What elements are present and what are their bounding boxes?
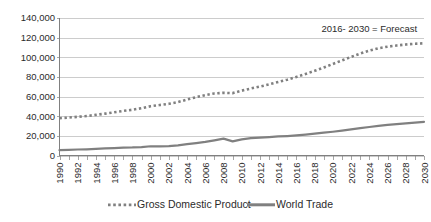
x-tick-label: 2030 <box>419 163 430 184</box>
y-tick-label: 120,000 <box>21 32 55 43</box>
y-tick-label: 40,000 <box>26 111 55 122</box>
x-tick-label: 2006 <box>200 163 211 184</box>
x-tick-label: 2020 <box>327 163 338 184</box>
x-tick-label: 1998 <box>127 163 138 184</box>
x-tick-label: 2012 <box>255 163 266 184</box>
x-tick-label: 2022 <box>346 163 357 184</box>
x-tick-label: 2024 <box>364 163 375 184</box>
x-tick-label: 2000 <box>145 163 156 184</box>
legend-label-world-trade: World Trade <box>276 198 333 210</box>
chart-legend: Gross Domestic ProductWorld Trade <box>108 198 333 210</box>
x-tick-label: 2028 <box>400 163 411 184</box>
y-tick-label: 140,000 <box>21 12 55 23</box>
legend-label-gdp: Gross Domestic Product <box>137 198 251 210</box>
x-tick-label: 2010 <box>236 163 247 184</box>
line-chart: 020,00040,00060,00080,000100,000120,0001… <box>0 0 431 222</box>
forecast-annotation-label: 2016- 2030 = Forecast <box>321 23 417 34</box>
x-tick-label: 2008 <box>218 163 229 184</box>
x-tick-label: 2014 <box>273 163 284 184</box>
y-tick-label: 80,000 <box>26 71 55 82</box>
x-tick-label: 2004 <box>182 163 193 184</box>
x-tick-label: 1992 <box>72 163 83 184</box>
x-axis-tick-labels: 1990199219941996199820002002200420062008… <box>54 163 430 184</box>
chart-canvas: 020,00040,00060,00080,000100,000120,0001… <box>0 0 431 222</box>
x-tick-label: 1990 <box>54 163 65 184</box>
x-tick-label: 1996 <box>109 163 120 184</box>
x-tick-label: 2026 <box>382 163 393 184</box>
y-tick-label: 20,000 <box>26 130 55 141</box>
x-tick-label: 2018 <box>309 163 320 184</box>
y-tick-label: 100,000 <box>21 52 55 63</box>
x-tick-label: 1994 <box>91 163 102 184</box>
x-tick-label: 2002 <box>163 163 174 184</box>
y-tick-label: 60,000 <box>26 91 55 102</box>
y-tick-label: 0 <box>50 150 55 161</box>
x-tick-label: 2016 <box>291 163 302 184</box>
chart-annotation: 2016- 2030 = Forecast <box>321 23 417 34</box>
